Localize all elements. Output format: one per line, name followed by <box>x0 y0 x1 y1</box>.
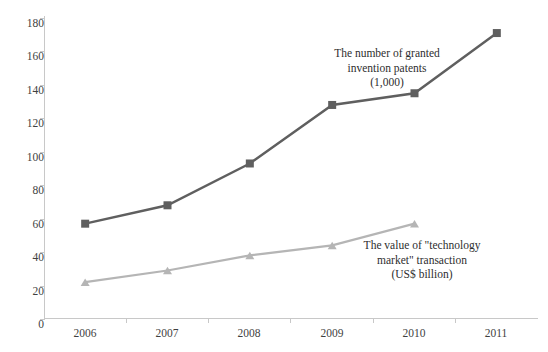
data-point-invention-patents-2010 <box>411 89 419 97</box>
data-point-invention-patents-2007 <box>164 201 172 209</box>
data-point-invention-patents-2006 <box>81 220 89 228</box>
data-point-invention-patents-2008 <box>246 159 254 167</box>
annotation-invention-patents: The number of granted invention patents … <box>308 46 466 90</box>
annotation-technology-market: The value of "technology market" transac… <box>333 238 511 282</box>
data-point-invention-patents-2009 <box>328 101 336 109</box>
data-point-invention-patents-2011 <box>493 29 501 37</box>
line-chart: 180 160 140 120 100 80 60 40 20 0 <box>0 0 548 352</box>
